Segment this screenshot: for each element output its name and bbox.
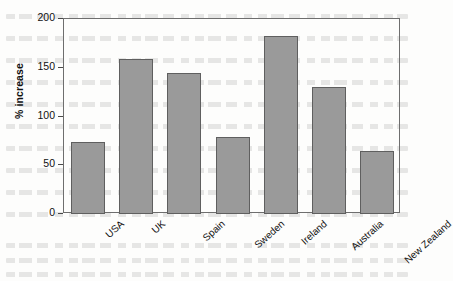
bar xyxy=(216,137,250,214)
bar xyxy=(360,151,394,214)
x-axis-tick-label: New Zealand xyxy=(402,218,453,266)
y-axis-tick: 0 xyxy=(0,213,63,214)
y-axis-tick: 150 xyxy=(0,67,63,68)
bar xyxy=(71,142,105,214)
x-axis-tick-label: UK xyxy=(150,218,168,235)
y-axis-tick: 100 xyxy=(0,116,63,117)
bar xyxy=(312,87,346,214)
bar xyxy=(167,73,201,214)
bar xyxy=(264,36,298,214)
y-axis-tick-label: 100 xyxy=(37,109,55,121)
y-axis-tick-label: 50 xyxy=(43,157,55,169)
x-axis-tick-label: Sweden xyxy=(252,218,286,250)
y-axis-tick-label: 0 xyxy=(49,206,55,218)
y-axis-tick-label: 200 xyxy=(37,11,55,23)
x-axis-tick-label: Ireland xyxy=(298,218,328,247)
y-axis-tick: 200 xyxy=(0,18,63,19)
y-axis-title: % increase xyxy=(13,46,25,136)
bar xyxy=(119,59,153,214)
y-axis-tick-label: 150 xyxy=(37,60,55,72)
x-axis-tick-label: Spain xyxy=(201,218,227,243)
y-axis-tick-mark xyxy=(58,213,63,214)
x-axis-tick-label: USA xyxy=(103,218,126,240)
y-axis-tick: 50 xyxy=(0,164,63,165)
x-axis-tick-label: Australia xyxy=(349,218,385,252)
plot-frame xyxy=(63,18,400,213)
